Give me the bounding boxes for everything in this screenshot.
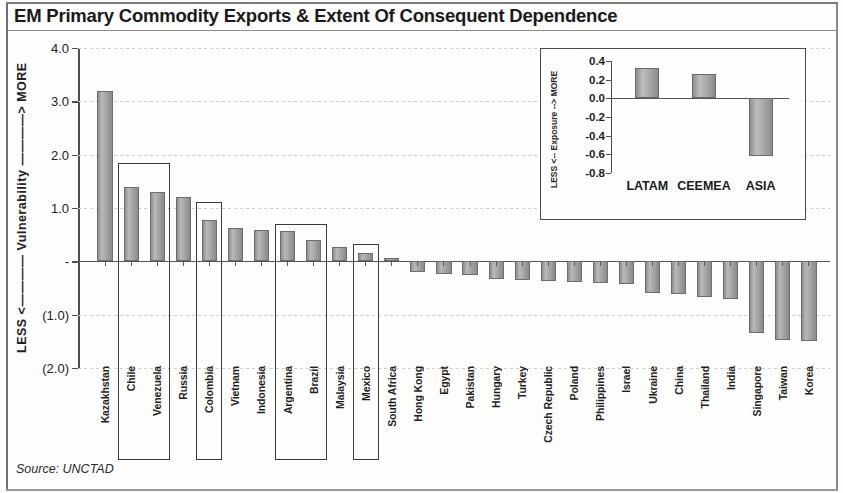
inset-y-tick <box>606 173 611 174</box>
category-label: Brazil <box>308 366 320 394</box>
x-tick <box>287 261 288 266</box>
inset-y-tick-label: -0.4 <box>585 130 605 142</box>
inset-bar-ceemea <box>692 74 716 98</box>
inset-y-tick <box>606 80 611 81</box>
inset-y-tick <box>606 154 611 155</box>
category-label: Indonesia <box>255 366 267 414</box>
x-tick <box>443 261 444 266</box>
y-tick <box>72 48 78 49</box>
y-tick-label: - <box>65 254 69 269</box>
bar-argentina <box>280 231 295 261</box>
x-tick <box>235 261 236 266</box>
inset-y-tick-label: 0.2 <box>589 74 605 86</box>
y-tick-label: (1.0) <box>42 307 69 322</box>
bar-thailand <box>697 261 712 296</box>
inset-y-tick-label: 0.0 <box>589 92 605 104</box>
inset-y-tick-label: -0.8 <box>585 167 605 179</box>
category-label: Hungary <box>490 366 502 408</box>
x-tick <box>365 261 366 266</box>
category-label: Pakistan <box>464 366 476 408</box>
y-tick <box>72 101 78 102</box>
inset-plot-area: 0.40.20.0-0.2-0.4-0.6-0.8 LATAMCEEMEAASI… <box>611 61 789 173</box>
category-label: Argentina <box>282 366 294 414</box>
inset-category-label: CEEMEA <box>676 179 733 193</box>
y-tick-label: 4.0 <box>51 41 69 56</box>
inset-category-label: ASIA <box>732 179 789 193</box>
figure-border-left <box>6 2 8 491</box>
x-tick <box>574 261 575 266</box>
gridline <box>78 368 830 369</box>
category-label: Israel <box>620 366 632 393</box>
category-label: Singapore <box>751 366 763 416</box>
x-tick <box>183 261 184 266</box>
x-tick <box>209 261 210 266</box>
y-tick <box>72 368 78 369</box>
x-tick <box>808 261 809 266</box>
category-label: Taiwan <box>777 366 789 400</box>
category-label: Thailand <box>699 366 711 408</box>
x-tick <box>391 261 392 266</box>
category-label: Philippines <box>594 366 606 421</box>
category-label: Colombia <box>203 366 215 413</box>
x-tick <box>548 261 549 266</box>
bar-india <box>723 261 738 298</box>
category-label: China <box>673 366 685 395</box>
x-tick <box>131 261 132 266</box>
category-label: Russia <box>177 366 189 400</box>
bar-taiwan <box>775 261 790 340</box>
x-tick <box>704 261 705 266</box>
y-tick <box>72 261 78 262</box>
inset-y-tick <box>606 117 611 118</box>
category-label: Vietnam <box>229 366 241 406</box>
y-tick-label: 2.0 <box>51 147 69 162</box>
x-tick <box>730 261 731 266</box>
x-tick <box>157 261 158 266</box>
category-label: Poland <box>568 366 580 400</box>
y-tick <box>72 315 78 316</box>
category-label: India <box>725 366 737 390</box>
category-label: Hong Kong <box>412 366 424 422</box>
bar-korea <box>801 261 816 341</box>
inset-chart: LESS <-- Exposure --> MORE 0.40.20.0-0.2… <box>540 48 806 220</box>
bar-chile <box>124 187 139 262</box>
figure-border-right <box>836 2 838 491</box>
y-axis-title: LESS <———— Vulnerability ————> MORE <box>12 48 32 368</box>
inset-y-tick-label: -0.6 <box>585 148 605 160</box>
category-label: Egypt <box>438 366 450 395</box>
category-label: Korea <box>803 366 815 395</box>
category-label: Malaysia <box>334 366 346 409</box>
category-label: Turkey <box>516 366 528 399</box>
inset-bar-asia <box>749 98 773 156</box>
bar-mexico <box>358 253 373 261</box>
inset-y-tick <box>606 61 611 62</box>
category-label: Venezuela <box>151 366 163 416</box>
x-tick <box>652 261 653 266</box>
x-tick <box>522 261 523 266</box>
x-tick <box>313 261 314 266</box>
y-tick <box>72 208 78 209</box>
inset-y-tick-label: -0.2 <box>585 111 605 123</box>
x-tick <box>470 261 471 266</box>
bar-vietnam <box>228 228 243 262</box>
x-tick <box>105 261 106 266</box>
y-tick-label: 1.0 <box>51 201 69 216</box>
x-tick <box>339 261 340 266</box>
x-tick <box>496 261 497 266</box>
inset-y-tick-label: 0.4 <box>589 55 605 67</box>
bar-brazil <box>306 240 321 261</box>
chart-title: EM Primary Commodity Exports & Extent Of… <box>14 5 617 27</box>
highlight-box-3 <box>353 244 379 460</box>
gridline <box>78 315 830 316</box>
bar-kazakhstan <box>97 91 112 262</box>
x-tick <box>417 261 418 266</box>
bar-colombia <box>202 220 217 262</box>
x-tick <box>756 261 757 266</box>
category-label: Czech Republic <box>542 366 554 443</box>
category-label: South Africa <box>386 366 398 427</box>
inset-category-label: LATAM <box>619 179 676 193</box>
bar-russia <box>176 197 191 261</box>
category-label: Kazakhstan <box>99 366 111 423</box>
bar-singapore <box>749 261 764 333</box>
title-divider <box>8 30 836 31</box>
x-tick <box>261 261 262 266</box>
